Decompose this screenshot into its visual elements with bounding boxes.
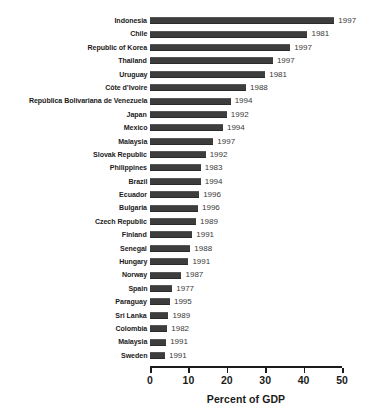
bar-year-label: 1994 — [235, 94, 253, 107]
bar-category-label: Chile — [130, 27, 147, 40]
bar-category-label: Bulgaria — [119, 201, 147, 214]
bar-year-label: 1991 — [169, 349, 187, 362]
x-axis-tick — [304, 368, 306, 373]
bar-category-label: Sri Lanka — [116, 309, 147, 322]
bar-row: Côte d’Ivoire1988 — [0, 81, 370, 94]
bar-year-label: 1992 — [231, 108, 249, 121]
bar-category-label: Colombia — [115, 322, 147, 335]
bar-row: Czech Republic1989 — [0, 215, 370, 228]
bar-category-label: República Bolivariana de Venezuela — [28, 94, 147, 107]
x-axis-tick — [342, 368, 344, 373]
bar — [150, 339, 166, 346]
bar-chart: Indonesia1997Chile1981Republic of Korea1… — [0, 0, 370, 413]
bar-category-label: Indonesia — [114, 14, 147, 27]
x-axis-tick-label: 30 — [245, 374, 285, 386]
bar-year-label: 1989 — [200, 215, 218, 228]
bar-category-label: Sweden — [121, 349, 147, 362]
bar — [150, 84, 246, 91]
x-axis-tick-label: 0 — [130, 374, 170, 386]
bar-category-label: Brazil — [128, 175, 147, 188]
bar — [150, 31, 307, 38]
bar — [150, 245, 190, 252]
bar-row: Ecuador1996 — [0, 188, 370, 201]
bar — [150, 151, 206, 158]
bar — [150, 98, 231, 105]
bar — [150, 325, 167, 332]
bar — [150, 285, 172, 292]
bar-category-label: Japan — [127, 108, 147, 121]
bar-rows: Indonesia1997Chile1981Republic of Korea1… — [0, 14, 370, 362]
bar — [150, 312, 168, 319]
bar-year-label: 1995 — [174, 295, 192, 308]
bar-year-label: 1988 — [250, 81, 268, 94]
x-axis-tick — [150, 368, 152, 373]
bar-category-label: Mexico — [123, 121, 147, 134]
bar-year-label: 1996 — [202, 201, 220, 214]
bar — [150, 258, 188, 265]
bar-row: Hungary1991 — [0, 255, 370, 268]
bar-row: Uruguay1981 — [0, 68, 370, 81]
bar-category-label: Uruguay — [119, 68, 147, 81]
bar-category-label: Ecuador — [119, 188, 147, 201]
x-axis-tick — [227, 368, 229, 373]
x-axis-line — [150, 366, 342, 368]
bar-category-label: Paraguay — [116, 295, 147, 308]
bar-year-label: 1997 — [217, 135, 235, 148]
bar-year-label: 1992 — [210, 148, 228, 161]
bar-row: Brazil1994 — [0, 175, 370, 188]
x-axis-tick — [188, 368, 190, 373]
bar-category-label: Malaysia — [118, 335, 147, 348]
bar — [150, 71, 265, 78]
bar-row: Chile1981 — [0, 27, 370, 40]
bar — [150, 17, 334, 24]
bar-category-label: Philippines — [110, 161, 147, 174]
bar — [150, 352, 165, 359]
bar-year-label: 1997 — [294, 41, 312, 54]
bar-row: Sweden1991 — [0, 349, 370, 362]
bar-row: Finland1991 — [0, 228, 370, 241]
bar — [150, 191, 199, 198]
bar — [150, 111, 227, 118]
bar-row: Bulgaria1996 — [0, 201, 370, 214]
bar-category-label: Republic of Korea — [87, 41, 147, 54]
bar-year-label: 1987 — [185, 268, 203, 281]
bar-row: República Bolivariana de Venezuela1994 — [0, 94, 370, 107]
bar-row: Colombia1982 — [0, 322, 370, 335]
x-axis-title: Percent of GDP — [150, 393, 342, 405]
bar-year-label: 1988 — [194, 242, 212, 255]
bar-category-label: Senegal — [120, 242, 147, 255]
bar — [150, 298, 170, 305]
bar-category-label: Norway — [122, 268, 147, 281]
bar-year-label: 1981 — [269, 68, 287, 81]
bar-year-label: 1994 — [227, 121, 245, 134]
bar-category-label: Spain — [128, 282, 147, 295]
bar — [150, 124, 223, 131]
bar — [150, 164, 201, 171]
bar-year-label: 1989 — [172, 309, 190, 322]
bar — [150, 57, 273, 64]
bar-row: Norway1987 — [0, 268, 370, 281]
bar-row: Sri Lanka1989 — [0, 309, 370, 322]
bar-category-label: Finland — [122, 228, 147, 241]
bar-year-label: 1977 — [176, 282, 194, 295]
bar-category-label: Czech Republic — [95, 215, 147, 228]
bar-year-label: 1991 — [196, 228, 214, 241]
bar-row: Malaysia1997 — [0, 135, 370, 148]
bar-row: Thailand1997 — [0, 54, 370, 67]
bar-year-label: 1982 — [171, 322, 189, 335]
bar-year-label: 1997 — [338, 14, 356, 27]
x-axis-tick-label: 10 — [168, 374, 208, 386]
bar-year-label: 1994 — [205, 175, 223, 188]
bar-year-label: 1991 — [192, 255, 210, 268]
bar-row: Spain1977 — [0, 282, 370, 295]
bar — [150, 205, 198, 212]
bar — [150, 178, 201, 185]
bar-year-label: 1996 — [203, 188, 221, 201]
bar-category-label: Thailand — [118, 54, 147, 67]
bar-category-label: Hungary — [119, 255, 147, 268]
bar-row: Slovak Republic1992 — [0, 148, 370, 161]
bar-year-label: 1997 — [277, 54, 295, 67]
bar-category-label: Côte d’Ivoire — [105, 81, 147, 94]
x-axis-tick — [265, 368, 267, 373]
bar-row: Indonesia1997 — [0, 14, 370, 27]
